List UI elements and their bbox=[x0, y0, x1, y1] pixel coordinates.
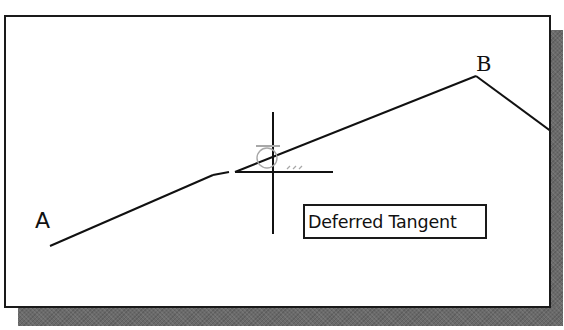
line-to-b-segment[interactable] bbox=[235, 76, 476, 172]
line-a-segment[interactable] bbox=[50, 175, 213, 246]
deferred-tangent-snap-icon bbox=[256, 146, 302, 169]
point-label-b: B bbox=[476, 54, 491, 75]
snap-tooltip-text: Deferred Tangent bbox=[308, 212, 457, 232]
rubber-band-tick bbox=[213, 172, 229, 175]
drawing-canvas[interactable] bbox=[0, 0, 564, 330]
line-b-to-right[interactable] bbox=[476, 76, 552, 132]
point-label-a: A bbox=[35, 210, 50, 232]
snap-tooltip: Deferred Tangent bbox=[303, 204, 487, 239]
